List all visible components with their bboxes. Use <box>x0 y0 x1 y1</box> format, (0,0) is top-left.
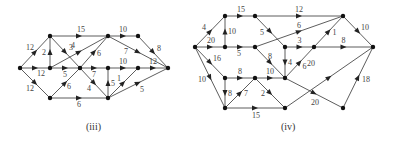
edge-weight-label: 18 <box>362 75 370 84</box>
edge-C-B: 2 <box>42 36 53 68</box>
edge-K-G: 5 <box>106 68 116 98</box>
edge-weight-label: 5 <box>260 28 264 37</box>
arrow-icon <box>206 74 213 82</box>
edge-weight-label: 5 <box>63 70 67 79</box>
node-a <box>223 14 227 18</box>
node-b <box>253 14 257 18</box>
edge-weight-label: 8 <box>268 52 272 61</box>
node-S <box>193 45 197 49</box>
edge-b-e: 12 <box>255 5 343 19</box>
node-j <box>283 76 287 80</box>
network-diagrams: 1212121532456746610781012515(iii) 420161… <box>0 0 393 142</box>
node-f <box>283 45 287 49</box>
node-k <box>223 106 227 110</box>
edge-f-g: 3 <box>285 36 314 50</box>
node-l <box>283 106 287 110</box>
arrow-icon <box>134 48 142 55</box>
edge-weight-label: 15 <box>237 5 245 14</box>
edge-m-T: 18 <box>343 47 373 108</box>
edge-weight-label: 10 <box>266 67 274 76</box>
arrow-icon <box>120 34 126 39</box>
edge-weight-label: 10 <box>119 57 127 66</box>
edge-c-a: 10 <box>223 16 237 47</box>
figure-caption: (iv) <box>281 121 295 133</box>
arrow-icon <box>48 49 53 55</box>
edge-D-E: 6 <box>80 36 108 68</box>
edge-weight-label: 7 <box>124 47 128 56</box>
arrow-icon <box>150 66 156 71</box>
edge-weight-label: 15 <box>77 25 85 34</box>
node-K <box>106 96 110 100</box>
arrow-icon <box>75 48 83 55</box>
edge-weight-label: 1 <box>333 28 337 37</box>
node-T <box>371 45 375 49</box>
node-e <box>341 14 345 18</box>
arrow-icon <box>106 80 111 86</box>
arrow-icon <box>223 29 228 35</box>
edge-A-J: 12 <box>20 68 50 98</box>
edge-weight-label: 12 <box>149 57 157 66</box>
edge-i-l: 2 <box>255 78 285 108</box>
edge-weight-label: 4 <box>71 41 75 50</box>
edge-weight-label: 1 <box>117 74 121 83</box>
edge-h-i: 8 <box>225 67 255 81</box>
node-H <box>136 66 140 70</box>
edge-weight-label: 3 <box>298 36 302 45</box>
edge-weight-label: 4 <box>87 84 91 93</box>
node-I <box>166 66 170 70</box>
node-B <box>48 34 52 38</box>
arrow-icon <box>297 45 303 50</box>
edge-weight-label: 12 <box>26 84 34 93</box>
node-c <box>223 45 227 49</box>
arrow-icon <box>283 60 288 66</box>
arrow-icon <box>325 74 333 82</box>
edge-weight-label: 7 <box>92 70 96 79</box>
node-E <box>106 34 110 38</box>
edge-weight-label: 20 <box>311 98 319 107</box>
edge-weight-label: 5 <box>111 79 115 88</box>
edge-j-m: 20 <box>285 78 343 108</box>
edge-weight-label: 5 <box>140 85 144 94</box>
arrow-icon <box>76 34 82 39</box>
arrow-icon <box>237 14 243 19</box>
arrow-icon <box>252 106 258 111</box>
edge-weight-label: 6 <box>303 62 307 71</box>
edge-weight-label: 7 <box>244 89 248 98</box>
arrow-icon <box>296 14 302 19</box>
edge-weight-label: 12 <box>37 69 45 78</box>
edge-weight-label: 10 <box>228 27 236 36</box>
edge-E-F: 10 <box>108 25 138 39</box>
edge-k-l: 15 <box>225 106 285 121</box>
edge-weight-label: 20 <box>307 59 315 68</box>
edge-weight-label: 4 <box>288 58 292 67</box>
edge-weight-label: 6 <box>297 21 301 30</box>
network-graph-iii: 1212121532456746610781012515(iii) <box>18 25 170 133</box>
edge-weight-label: 4 <box>202 23 206 32</box>
node-D <box>78 66 82 70</box>
edge-B-E: 15 <box>50 25 108 39</box>
edge-weight-label: 8 <box>157 44 161 53</box>
edge-weight-label: 5 <box>237 49 241 58</box>
edge-l-T: 20 <box>285 47 373 108</box>
arrow-icon <box>267 76 273 81</box>
edge-weight-label: 6 <box>77 100 81 109</box>
edge-J-K: 6 <box>50 96 108 110</box>
arrow-icon <box>237 76 243 81</box>
edge-weight-label: 6 <box>97 49 101 58</box>
node-m <box>341 106 345 110</box>
edge-S-h: 16 <box>195 47 225 78</box>
edge-G-H: 10 <box>108 57 138 71</box>
node-h <box>223 76 227 80</box>
edge-weight-label: 12 <box>295 5 303 14</box>
edge-weight-label: 8 <box>238 67 242 76</box>
arrow-icon <box>310 89 318 96</box>
node-J <box>48 96 52 100</box>
edge-weight-label: 2 <box>42 48 46 57</box>
network-graph-iv: 42016101510125568346181088710215202018(i… <box>193 5 375 133</box>
node-F <box>136 34 140 38</box>
figure-caption: (iii) <box>86 121 101 133</box>
node-C <box>48 66 52 70</box>
arrow-icon <box>207 45 213 50</box>
arrow-icon <box>120 66 126 71</box>
node-g <box>312 45 316 49</box>
